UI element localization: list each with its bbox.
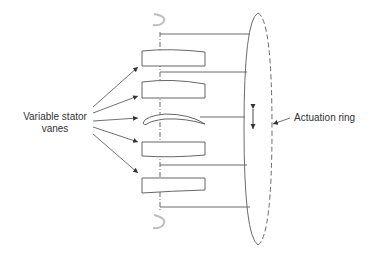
vane-1 <box>142 50 205 66</box>
variable-stator-vane-diagram: Variable stator vanes Actuation ring <box>0 0 375 258</box>
vane-2 <box>142 80 205 98</box>
ring-leader-line <box>273 118 290 124</box>
vane-4 <box>142 142 205 157</box>
actuation-ring-near-side <box>244 13 258 245</box>
variable-stator-vanes-label: Variable stator vanes <box>18 111 92 135</box>
rotation-arrow-bottom-icon <box>153 215 164 228</box>
stator-vanes <box>142 50 205 193</box>
actuation-ring-far-side <box>258 13 272 245</box>
vane-5 <box>142 178 205 193</box>
actuation-ring-label: Actuation ring <box>294 112 355 124</box>
vane-3-airfoil <box>143 114 205 125</box>
vane-leader-lines <box>93 67 138 173</box>
rotation-arrow-top-icon <box>153 14 164 25</box>
